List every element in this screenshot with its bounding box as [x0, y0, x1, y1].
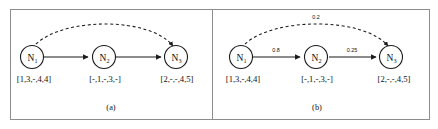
node-n3-subscript: 3	[394, 57, 397, 64]
node-n1-label: N	[237, 53, 244, 63]
edge-n1-n3-dashed	[36, 24, 173, 46]
node-n2-label: N	[100, 53, 107, 63]
figure-root: N 1 N 2 N 3 [1,3,-,4,4] [-,1,-,3,-] [2,-…	[0, 0, 438, 129]
node-n2-vector: [-,1,-,3,-]	[301, 74, 333, 84]
node-n1-vector: [1,3,-,4,4]	[226, 74, 261, 84]
panel-a-graph: N 1 N 2 N 3 [1,3,-,4,4] [-,1,-,3,-] [2,-…	[10, 9, 213, 120]
edge-n1-n3-dashed	[245, 24, 388, 46]
node-n3-vector: [2,-,-,4,5]	[378, 74, 411, 84]
node-n2-vector: [-,1,-,3,-]	[89, 74, 121, 84]
panel-a-caption: (a)	[106, 103, 116, 112]
node-n3-label: N	[172, 53, 179, 63]
node-n2-subscript: 2	[319, 57, 322, 64]
node-n1-vector: [1,3,-,4,4]	[17, 74, 52, 84]
panel-b: 0.2 0.8 0.25 N 1 N 2 N 3 [1,3,-,4,4] [-,…	[212, 9, 430, 120]
panel-a: N 1 N 2 N 3 [1,3,-,4,4] [-,1,-,3,-] [2,-…	[10, 9, 213, 120]
node-n2-subscript: 2	[107, 57, 110, 64]
node-n1-subscript: 1	[35, 57, 38, 64]
edge-n1-n3-weight: 0.2	[312, 14, 320, 20]
node-n3-vector: [2,-,-,4,5]	[161, 74, 194, 84]
node-n3-label: N	[387, 53, 394, 63]
node-n1-subscript: 1	[244, 57, 247, 64]
panel-b-caption: (b)	[312, 103, 322, 112]
edge-n1-n2-weight: 0.8	[272, 47, 280, 53]
node-n1-label: N	[28, 53, 35, 63]
node-n2-label: N	[312, 53, 319, 63]
node-n3-subscript: 3	[179, 57, 182, 64]
edge-n2-n3-weight: 0.25	[347, 47, 358, 53]
panel-b-graph: 0.2 0.8 0.25 N 1 N 2 N 3 [1,3,-,4,4] [-,…	[212, 9, 430, 120]
